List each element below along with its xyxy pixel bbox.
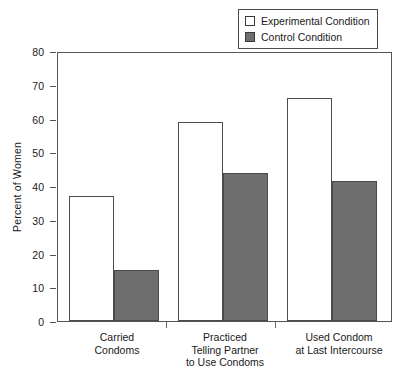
- y-axis-tick-mark: [50, 288, 56, 289]
- y-axis-tick-mark: [50, 322, 56, 323]
- bar-experimental-group-3: [287, 98, 332, 321]
- legend-swatch-control-icon: [245, 32, 255, 42]
- y-axis-tick-label: 60: [0, 115, 44, 125]
- y-axis-tick-mark: [50, 221, 56, 222]
- bar-experimental-group-2: [178, 122, 223, 321]
- y-axis-tick-label: 20: [0, 250, 44, 260]
- x-axis-group-separator: [275, 322, 276, 328]
- y-axis-tick-mark: [50, 187, 56, 188]
- y-axis-tick-mark: [50, 120, 56, 121]
- x-axis-category-label-1: CarriedCondoms: [58, 331, 176, 356]
- x-axis-category-label-line: to Use Condoms: [166, 356, 284, 369]
- y-axis-tick-label: 70: [0, 81, 44, 91]
- legend-item-experimental: Experimental Condition: [245, 14, 370, 28]
- y-axis-tick-mark: [50, 86, 56, 87]
- y-axis-tick-mark: [50, 52, 56, 53]
- x-axis-category-label-line: Practiced: [166, 331, 284, 344]
- legend-swatch-experimental-icon: [245, 16, 255, 26]
- x-axis-category-label-3: Used Condomat Last Intercourse: [276, 331, 402, 356]
- x-axis-category-label-line: Used Condom: [276, 331, 402, 344]
- y-axis-tick-label: 10: [0, 283, 44, 293]
- x-axis-category-label-line: Condoms: [58, 344, 176, 357]
- x-axis-category-label-line: Telling Partner: [166, 344, 284, 357]
- bar-control-group-3: [332, 181, 377, 321]
- y-axis-tick-label: 0: [0, 317, 44, 327]
- bar-control-group-1: [114, 270, 159, 321]
- y-axis-tick-label: 40: [0, 182, 44, 192]
- y-axis-tick-mark: [50, 255, 56, 256]
- bar-experimental-group-1: [69, 196, 114, 321]
- y-axis-ticks: 01020304050607080: [0, 52, 57, 322]
- y-axis-tick-mark: [50, 153, 56, 154]
- chart-legend: Experimental Condition Control Condition: [238, 9, 378, 49]
- y-axis-tick-label: 50: [0, 148, 44, 158]
- y-axis-tick-label: 80: [0, 47, 44, 57]
- x-axis-group-separator: [166, 322, 167, 328]
- legend-label-experimental: Experimental Condition: [261, 15, 370, 27]
- x-axis-category-label-2: PracticedTelling Partnerto Use Condoms: [166, 331, 284, 369]
- bar-control-group-2: [223, 173, 268, 322]
- bar-chart: Experimental Condition Control Condition…: [0, 0, 405, 378]
- legend-item-control: Control Condition: [245, 30, 370, 44]
- x-axis-category-label-line: at Last Intercourse: [276, 344, 402, 357]
- x-axis-category-label-line: Carried: [58, 331, 176, 344]
- plot-area: [57, 52, 392, 322]
- legend-label-control: Control Condition: [261, 31, 342, 43]
- y-axis-tick-label: 30: [0, 216, 44, 226]
